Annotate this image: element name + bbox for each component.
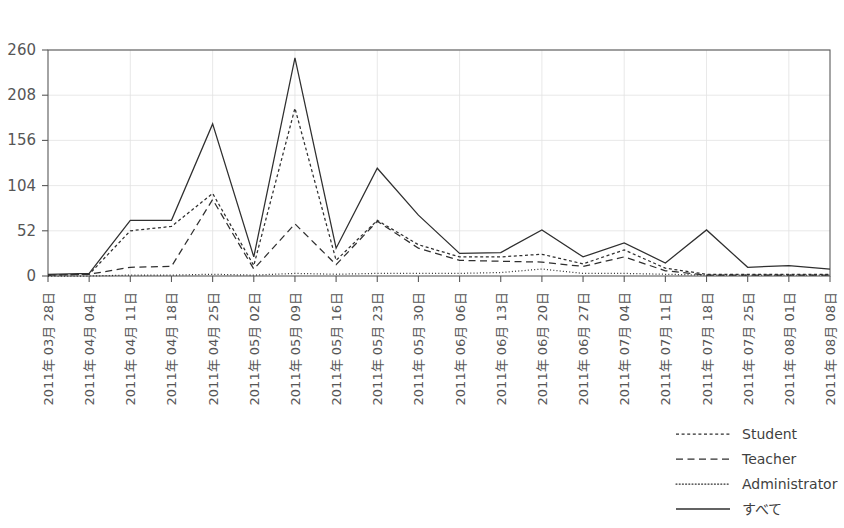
x-tick-label: 2011年 03月 28日 xyxy=(41,292,56,405)
x-tick-label: 2011年 04月 11日 xyxy=(123,292,138,405)
y-tick-label: 104 xyxy=(7,177,36,195)
y-tick-label: 52 xyxy=(17,222,36,240)
plot-frame xyxy=(48,50,830,276)
legend-label: Student xyxy=(742,426,798,442)
plot-area-border xyxy=(48,50,830,276)
series-line-teacher xyxy=(48,200,830,276)
x-tick-label: 2011年 04月 25日 xyxy=(206,292,221,405)
legend-label: すべて xyxy=(742,501,782,517)
x-tick-label: 2011年 07月 04日 xyxy=(617,292,632,405)
x-tick-label: 2011年 07月 25日 xyxy=(741,292,756,405)
legend-item--[interactable]: すべて xyxy=(676,501,782,517)
legend-label: Administrator xyxy=(742,476,838,492)
legend-item-teacher[interactable]: Teacher xyxy=(676,451,797,467)
gridlines xyxy=(48,50,830,276)
x-tick-label: 2011年 07月 18日 xyxy=(700,292,715,405)
y-tick-label: 260 xyxy=(7,41,36,59)
series-line-student xyxy=(48,108,830,275)
x-tick-label: 2011年 05月 02日 xyxy=(247,292,262,405)
y-tick-label: 0 xyxy=(26,267,36,285)
legend-label: Teacher xyxy=(741,451,797,467)
x-tick-label: 2011年 06月 13日 xyxy=(494,292,509,405)
x-tick-label: 2011年 08月 01日 xyxy=(782,292,797,405)
x-tick-label: 2011年 06月 20日 xyxy=(535,292,550,405)
y-tick-label: 208 xyxy=(7,86,36,104)
line-chart: 052104156208260 2011年 03月 28日2011年 04月 0… xyxy=(0,0,844,528)
x-tick-label: 2011年 06月 27日 xyxy=(576,292,591,405)
x-axis-labels: 2011年 03月 28日2011年 04月 04日2011年 04月 11日2… xyxy=(41,292,838,405)
x-axis-ticks xyxy=(48,276,830,282)
series-line-- xyxy=(48,58,830,274)
x-tick-label: 2011年 07月 11日 xyxy=(658,292,673,405)
x-tick-label: 2011年 05月 23日 xyxy=(370,292,385,405)
x-tick-label: 2011年 05月 30日 xyxy=(411,292,426,405)
x-tick-label: 2011年 04月 18日 xyxy=(164,292,179,405)
data-series xyxy=(48,58,830,276)
y-axis-labels: 052104156208260 xyxy=(7,41,36,285)
chart-legend: StudentTeacherAdministratorすべて xyxy=(676,426,838,517)
x-tick-label: 2011年 05月 16日 xyxy=(329,292,344,405)
y-tick-label: 156 xyxy=(7,131,36,149)
x-tick-label: 2011年 04月 04日 xyxy=(82,292,97,405)
y-axis-ticks xyxy=(42,50,48,276)
legend-item-student[interactable]: Student xyxy=(676,426,798,442)
x-tick-label: 2011年 06月 06日 xyxy=(453,292,468,405)
x-tick-label: 2011年 08月 08日 xyxy=(823,292,838,405)
x-tick-label: 2011年 05月 09日 xyxy=(288,292,303,405)
chart-canvas: 052104156208260 2011年 03月 28日2011年 04月 0… xyxy=(0,0,844,528)
legend-item-administrator[interactable]: Administrator xyxy=(676,476,838,492)
